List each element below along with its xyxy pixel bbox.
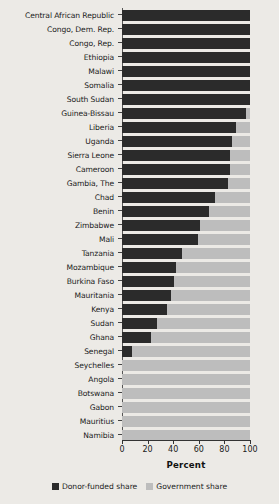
donor-share-segment xyxy=(122,94,250,105)
legend-item: Donor-funded share xyxy=(52,482,137,491)
x-axis-tick xyxy=(199,440,200,444)
x-axis-tick-label: 100 xyxy=(242,445,257,454)
category-label: Mali xyxy=(0,235,118,244)
bar-row: Somalia xyxy=(0,78,279,92)
stacked-bar xyxy=(122,52,250,63)
donor-share-segment xyxy=(122,150,230,161)
bar-row: Botswana xyxy=(0,386,279,400)
government-share-segment xyxy=(122,374,250,385)
stacked-bar xyxy=(122,346,250,357)
plot-area: Central African RepublicCongo, Dem. Rep.… xyxy=(0,0,279,448)
stacked-bar xyxy=(122,66,250,77)
stacked-bar xyxy=(122,122,250,133)
category-label: Tanzania xyxy=(0,249,118,258)
x-axis-tick xyxy=(122,440,123,444)
category-label: Sudan xyxy=(0,319,118,328)
stacked-bar xyxy=(122,94,250,105)
category-label: Senegal xyxy=(0,347,118,356)
donor-share-segment xyxy=(122,38,250,49)
bar-row: Angola xyxy=(0,372,279,386)
bar-row: Gambia, The xyxy=(0,176,279,190)
government-share-segment xyxy=(122,430,250,441)
bar-row: South Sudan xyxy=(0,92,279,106)
x-axis-tick-label: 40 xyxy=(168,445,178,454)
government-share-segment xyxy=(157,318,250,329)
bar-row: Guinea-Bissau xyxy=(0,106,279,120)
donor-share-segment xyxy=(122,192,215,203)
stacked-bar xyxy=(122,136,250,147)
donor-share-segment xyxy=(122,122,236,133)
stacked-bar xyxy=(122,276,250,287)
category-label: Cameroon xyxy=(0,165,118,174)
stacked-bar xyxy=(122,416,250,427)
category-label: Congo, Rep. xyxy=(0,39,118,48)
bar-row: Malawi xyxy=(0,64,279,78)
stacked-bar xyxy=(122,430,250,441)
category-label: South Sudan xyxy=(0,95,118,104)
government-share-segment xyxy=(151,332,250,343)
stacked-bar xyxy=(122,402,250,413)
stacked-bar xyxy=(122,108,250,119)
government-share-segment xyxy=(176,262,250,273)
x-axis-tick-label: 80 xyxy=(219,445,229,454)
legend-label: Donor-funded share xyxy=(62,482,137,491)
government-share-segment xyxy=(122,402,250,413)
category-label: Zimbabwe xyxy=(0,221,118,230)
bar-row: Benin xyxy=(0,204,279,218)
bar-row: Senegal xyxy=(0,344,279,358)
stacked-bar xyxy=(122,290,250,301)
government-share-segment xyxy=(228,178,250,189)
bar-row: Congo, Rep. xyxy=(0,36,279,50)
bar-row: Zimbabwe xyxy=(0,218,279,232)
bar-row: Congo, Dem. Rep. xyxy=(0,22,279,36)
category-label: Botswana xyxy=(0,389,118,398)
bar-row: Burkina Faso xyxy=(0,274,279,288)
x-axis-tick xyxy=(224,440,225,444)
stacked-bar-chart: Central African RepublicCongo, Dem. Rep.… xyxy=(0,0,279,504)
bar-row: Kenya xyxy=(0,302,279,316)
bar-row: Mauritania xyxy=(0,288,279,302)
x-axis-tick-label: 20 xyxy=(143,445,153,454)
bar-rows: Central African RepublicCongo, Dem. Rep.… xyxy=(0,8,279,442)
stacked-bar xyxy=(122,164,250,175)
category-label: Chad xyxy=(0,193,118,202)
bar-row: Tanzania xyxy=(0,246,279,260)
donor-share-segment xyxy=(122,108,246,119)
government-share-segment xyxy=(122,416,250,427)
government-share-swatch xyxy=(146,483,153,490)
chart-legend: Donor-funded shareGovernment share xyxy=(0,482,279,491)
donor-share-segment xyxy=(122,52,250,63)
stacked-bar xyxy=(122,192,250,203)
donor-share-segment xyxy=(122,262,176,273)
category-label: Liberia xyxy=(0,123,118,132)
x-axis-tick-label: 0 xyxy=(119,445,124,454)
government-share-segment xyxy=(198,234,250,245)
government-share-segment xyxy=(215,192,250,203)
bar-row: Seychelles xyxy=(0,358,279,372)
government-share-segment xyxy=(171,290,250,301)
donor-share-segment xyxy=(122,164,230,175)
bar-row: Mauritius xyxy=(0,414,279,428)
category-label: Central African Republic xyxy=(0,11,118,20)
category-label: Malawi xyxy=(0,67,118,76)
category-label: Namibia xyxy=(0,431,118,440)
government-share-segment xyxy=(232,136,250,147)
bar-row: Liberia xyxy=(0,120,279,134)
bar-row: Sudan xyxy=(0,316,279,330)
bar-row: Mozambique xyxy=(0,260,279,274)
stacked-bar xyxy=(122,248,250,259)
x-axis-tick-label: 60 xyxy=(194,445,204,454)
bar-row: Chad xyxy=(0,190,279,204)
category-label: Sierra Leone xyxy=(0,151,118,160)
stacked-bar xyxy=(122,80,250,91)
government-share-segment xyxy=(236,122,250,133)
donor-share-segment xyxy=(122,318,157,329)
category-label: Ghana xyxy=(0,333,118,342)
stacked-bar xyxy=(122,234,250,245)
stacked-bar xyxy=(122,304,250,315)
category-label: Burkina Faso xyxy=(0,277,118,286)
category-label: Angola xyxy=(0,375,118,384)
bar-row: Mali xyxy=(0,232,279,246)
donor-share-segment xyxy=(122,10,250,21)
bar-row: Central African Republic xyxy=(0,8,279,22)
